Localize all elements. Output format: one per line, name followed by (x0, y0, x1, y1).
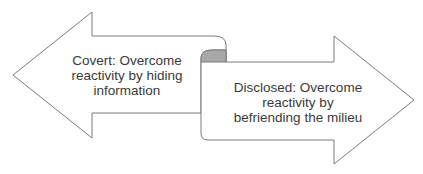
right-arrow-label: Disclosed: Overcome reactivity by befrie… (232, 80, 364, 125)
left-label-line-1: Covert: Overcome (62, 53, 192, 68)
right-label-line-2: reactivity by (232, 95, 364, 110)
scroll-curl-icon (201, 50, 226, 62)
right-label-line-3: befriending the milieu (232, 110, 364, 125)
left-label-line-3: information (62, 83, 192, 98)
left-arrow-label: Covert: Overcome reactivity by hiding in… (62, 53, 192, 98)
right-label-line-1: Disclosed: Overcome (232, 80, 364, 95)
left-label-line-2: reactivity by hiding (62, 68, 192, 83)
